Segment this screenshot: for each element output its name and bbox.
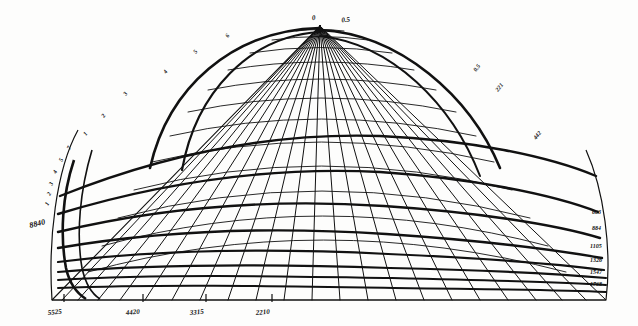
upper-right-label-1: 221 bbox=[493, 82, 504, 94]
upper-left-label-1: 5 bbox=[192, 49, 199, 55]
left-label-1: 5 bbox=[58, 157, 65, 162]
apex-label-group: 0 0.5 bbox=[311, 14, 351, 25]
upper-right-axis-labels: 0.5 221 442 bbox=[472, 63, 542, 141]
left-label-4: 2 bbox=[45, 191, 52, 197]
right-label-1105: 1105 bbox=[590, 243, 602, 249]
bottom-label-2: 3315 bbox=[188, 308, 204, 318]
apex-label-left: 0 bbox=[311, 14, 316, 22]
upper-left-label-2: 4 bbox=[161, 69, 168, 76]
upper-left-label-0: 6 bbox=[224, 33, 231, 39]
radial-fan-lines bbox=[52, 26, 606, 300]
right-label-1768: 1768 bbox=[590, 281, 602, 287]
right-label-884: 884 bbox=[592, 225, 601, 231]
right-label-1547: 1547 bbox=[590, 269, 603, 275]
apex-label-right: 0.5 bbox=[341, 15, 351, 24]
upper-left-label-4: 2 bbox=[99, 113, 106, 120]
right-label-663: 663 bbox=[592, 209, 601, 215]
upper-right-label-2: 442 bbox=[531, 130, 542, 142]
left-label-5: 1 bbox=[44, 201, 51, 206]
upper-left-label-5: 1 bbox=[82, 131, 89, 137]
left-label-2: 4 bbox=[51, 169, 58, 175]
upper-left-label-3: 3 bbox=[121, 91, 128, 98]
chart-canvas: 0 0.5 6 5 4 3 2 1 7 5 4 3 2 1 8840 0.5 2… bbox=[0, 0, 638, 326]
upper-left-axis-labels: 6 5 4 3 2 1 bbox=[82, 33, 231, 137]
nomogram-figure: 0 0.5 6 5 4 3 2 1 7 5 4 3 2 1 8840 0.5 2… bbox=[0, 0, 638, 326]
left-outer-label: 8840 bbox=[28, 217, 46, 230]
right-label-1326: 1326 bbox=[590, 257, 602, 263]
bottom-label-0: 5525 bbox=[47, 308, 62, 317]
bottom-label-3: 2210 bbox=[254, 308, 270, 318]
bottom-axis-labels: 5525 4420 3315 2210 bbox=[47, 308, 270, 318]
left-label-0: 7 bbox=[66, 144, 73, 150]
right-axis-labels: 663 884 1105 1326 1547 1768 bbox=[590, 209, 603, 287]
bottom-label-1: 4420 bbox=[124, 308, 140, 318]
upper-right-label-0: 0.5 bbox=[472, 63, 481, 73]
left-label-3: 3 bbox=[47, 181, 54, 187]
